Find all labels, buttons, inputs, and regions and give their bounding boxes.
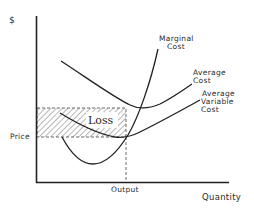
- price-label: Price: [10, 132, 30, 141]
- cost-curves-chart: $ Price Output Quantity Loss Marginal Co…: [0, 0, 254, 209]
- marginal-cost-label-line2: Cost: [167, 42, 185, 51]
- output-label: Output: [111, 185, 139, 194]
- avc-label-line3: Cost: [201, 105, 219, 114]
- y-axis-label: $: [9, 15, 15, 25]
- loss-label: Loss: [88, 114, 114, 127]
- x-axis-label: Quantity: [202, 192, 241, 202]
- average-cost-label-line2: Cost: [193, 76, 211, 85]
- marginal-cost-curve: [62, 49, 158, 164]
- average-cost-curve: [61, 61, 192, 108]
